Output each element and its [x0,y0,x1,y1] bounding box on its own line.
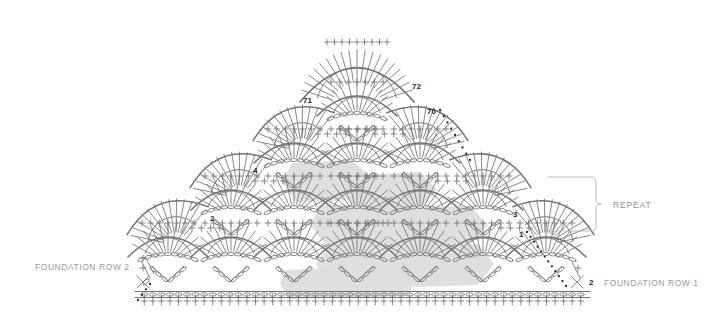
repeat-shading [280,160,494,299]
foundation-row-1-label: FOUNDATION ROW 1 [604,278,699,288]
row-number-2-7: 2 [589,278,593,287]
row-number-70-2: 70 [427,107,436,116]
row-number-72-1: 72 [412,82,421,91]
row-number-3-5: 3 [513,210,517,219]
row-number-2-4: 2 [210,214,214,223]
row-number-4-3: 4 [253,166,257,175]
foundation-row-2-label: FOUNDATION ROW 2 [35,262,130,272]
repeat-label: REPEAT [613,200,651,210]
row-number-1-6: 1 [519,230,523,239]
row-number-71-0: 71 [303,96,312,105]
crochet-chart-svg [0,0,725,321]
chart-canvas: FOUNDATION ROW 2 FOUNDATION ROW 1 REPEAT… [0,0,725,321]
